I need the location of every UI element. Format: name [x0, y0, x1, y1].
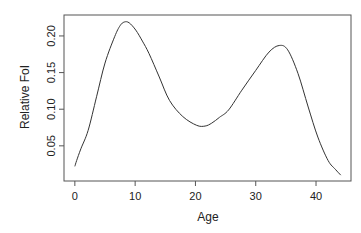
- x-tick-label: 20: [189, 190, 201, 202]
- y-tick-label: 0.15: [45, 62, 57, 83]
- y-tick-label: 0.20: [45, 25, 57, 46]
- x-tick-label: 10: [129, 190, 141, 202]
- x-axis: 010203040: [72, 181, 322, 202]
- y-tick-label: 0.05: [45, 135, 57, 156]
- x-tick-label: 30: [250, 190, 262, 202]
- y-axis: 0.050.100.150.20: [45, 25, 64, 156]
- plot-area-frame: [64, 15, 351, 181]
- x-tick-label: 0: [72, 190, 78, 202]
- line-chart: 010203040 0.050.100.150.20 Age Relative …: [0, 0, 361, 233]
- x-axis-label: Age: [197, 210, 219, 224]
- x-tick-label: 40: [310, 190, 322, 202]
- series-line-relative-foi: [75, 22, 341, 175]
- y-tick-label: 0.10: [45, 98, 57, 119]
- y-axis-label: Relative FoI: [18, 65, 32, 129]
- chart-container: 010203040 0.050.100.150.20 Age Relative …: [0, 0, 361, 233]
